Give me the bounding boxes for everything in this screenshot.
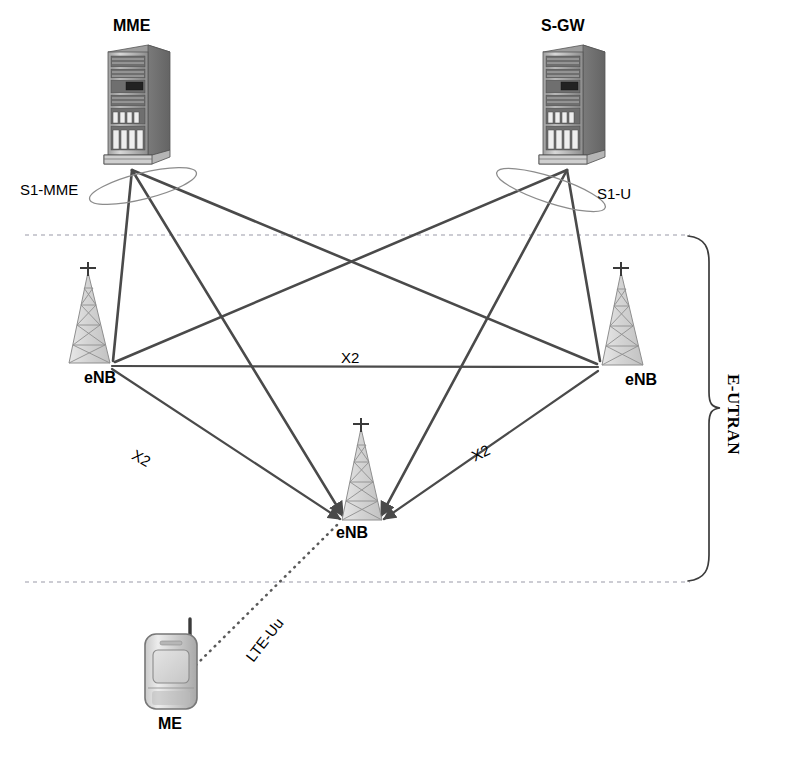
x2-horizontal-label: X2 (341, 350, 359, 365)
link-s1-u-left (115, 170, 567, 362)
enb-left-label: eNB (84, 370, 116, 386)
enb-center-label: eNB (336, 525, 368, 541)
interface-lasso-ellipses (86, 160, 609, 220)
s1-u-interface-label: S1-U (597, 186, 631, 201)
link-s1-mme-right (132, 170, 597, 364)
mme-server-rack-icon (104, 45, 170, 164)
me-mobile-phone-icon (145, 619, 197, 709)
enb-left-cell-tower-icon (69, 262, 110, 363)
link-x2-right (384, 371, 598, 519)
link-x2-horizontal (112, 366, 598, 367)
link-s1-mme-left (113, 170, 132, 361)
link-s1-mme-center (132, 170, 343, 516)
lte-architecture-diagram: MME S-GW eNB eNB eNB ME S1-MME S1-U LTE-… (0, 0, 797, 757)
s1-u-lasso-ellipse (493, 160, 609, 220)
link-x2-left (112, 369, 340, 519)
enb-center-cell-tower-icon (342, 418, 382, 520)
diagram-canvas (0, 0, 797, 757)
me-label: ME (158, 716, 182, 732)
enb-right-label: eNB (625, 372, 657, 388)
eutran-region-label: E-UTRAN (725, 374, 742, 455)
link-s1-u-center (381, 170, 567, 516)
mme-label: MME (113, 18, 150, 34)
sgw-label: S-GW (541, 18, 585, 34)
eutran-curly-brace (688, 236, 720, 581)
link-s1-u-right (567, 170, 600, 361)
sgw-server-rack-icon (539, 45, 605, 164)
s1-mme-interface-label: S1-MME (20, 182, 78, 197)
enb-right-cell-tower-icon (602, 262, 643, 365)
